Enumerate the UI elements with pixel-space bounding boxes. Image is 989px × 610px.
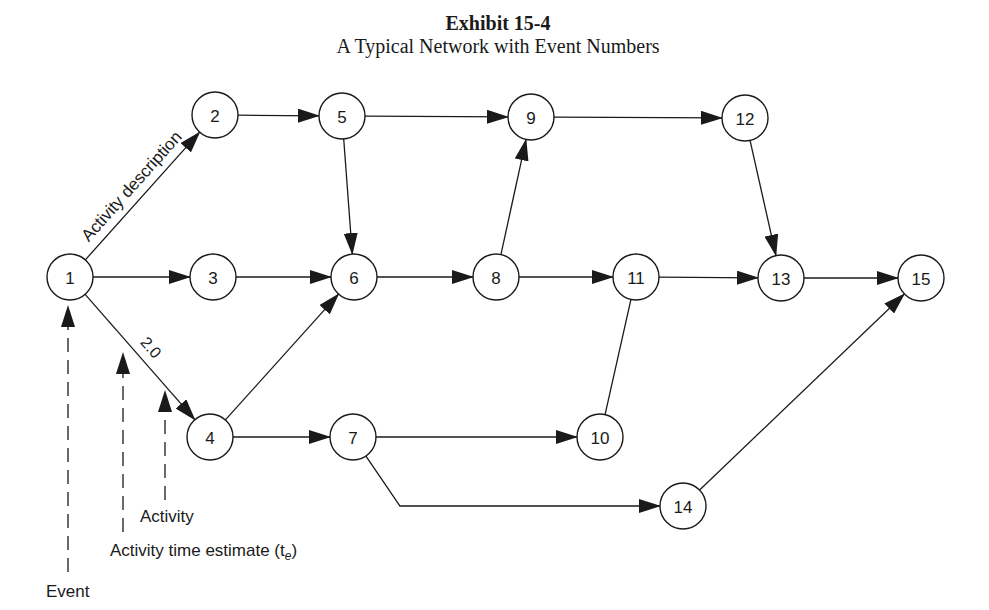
- event-number: 2: [210, 107, 219, 126]
- event-number: 11: [627, 269, 645, 288]
- activity-arrow-5-6: [344, 139, 353, 254]
- event-number: 10: [591, 429, 610, 448]
- event-number: 14: [674, 498, 693, 517]
- event-number: 1: [65, 269, 74, 288]
- diagram-subtitle: A Typical Network with Event Numbers: [336, 35, 659, 58]
- event-number: 7: [348, 429, 357, 448]
- activity-arrow-1-4: [85, 294, 195, 419]
- callouts-layer: EventActivity time estimate (te)Activity: [46, 305, 297, 601]
- event-node-13: 13: [758, 255, 804, 301]
- exhibit-title: Exhibit 15-4: [445, 12, 550, 34]
- activity-arrow-5-9: [365, 116, 508, 117]
- edge-label-1-4: 2.0: [137, 333, 165, 361]
- event-node-14: 14: [660, 483, 706, 529]
- event-node-5: 5: [319, 93, 365, 139]
- event-node-11: 11: [613, 254, 659, 300]
- event-node-15: 15: [898, 255, 944, 301]
- event-number: 15: [912, 270, 931, 289]
- event-node-1: 1: [47, 254, 93, 300]
- nodes-layer: 123456789101112131415: [47, 92, 944, 529]
- activity-arrow-7-14: [366, 456, 660, 506]
- event-number: 4: [205, 429, 214, 448]
- arrow-up-icon: [61, 305, 75, 327]
- activity-arrow-8-9: [501, 139, 526, 254]
- callout-label: Activity time estimate (te): [110, 541, 297, 563]
- event-number: 8: [491, 269, 500, 288]
- event-node-6: 6: [331, 254, 377, 300]
- edge-label-1-2: Activity description: [78, 128, 186, 246]
- arrow-up-icon: [158, 390, 172, 412]
- event-node-10: 10: [577, 414, 623, 460]
- callout-label: Activity: [140, 507, 194, 526]
- activity-arrow-2-5: [238, 115, 319, 116]
- event-node-4: 4: [187, 414, 233, 460]
- event-number: 13: [772, 270, 791, 289]
- event-number: 9: [526, 109, 535, 128]
- event-number: 12: [736, 110, 755, 129]
- callout-event-0: Event: [46, 305, 90, 601]
- activity-arrow-12-13: [750, 140, 776, 255]
- activity-arrow-9-12: [554, 117, 722, 118]
- event-node-3: 3: [190, 254, 236, 300]
- event-node-7: 7: [330, 414, 376, 460]
- event-node-2: 2: [192, 92, 238, 138]
- network-diagram: Exhibit 15-4 A Typical Network with Even…: [0, 0, 989, 610]
- activity-arrow-1-2: [85, 132, 199, 260]
- event-node-8: 8: [473, 254, 519, 300]
- arrow-up-icon: [116, 352, 130, 374]
- event-node-9: 9: [508, 94, 554, 140]
- event-node-12: 12: [722, 95, 768, 141]
- activity-arrow-10-11: [605, 299, 631, 414]
- event-number: 5: [337, 108, 346, 127]
- activity-arrow-11-13: [659, 277, 758, 278]
- callout-label: Event: [46, 582, 90, 601]
- event-number: 6: [349, 269, 358, 288]
- activity-arrow-14-15: [700, 294, 905, 490]
- activity-arrow-4-6: [225, 294, 338, 420]
- event-number: 3: [208, 269, 217, 288]
